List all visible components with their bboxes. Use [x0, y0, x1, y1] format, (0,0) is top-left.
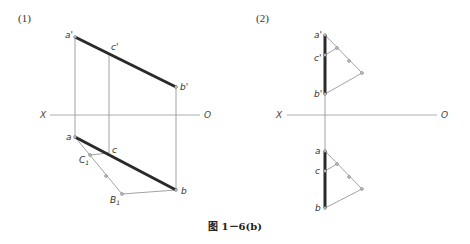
label-c-2: c	[315, 166, 320, 176]
point-a-prime	[74, 36, 77, 39]
point-b	[175, 189, 178, 192]
aux-line-top-slant	[325, 151, 362, 189]
point-front-apex	[361, 72, 364, 75]
label-c-prime-2: c'	[314, 53, 321, 63]
aux-line-front-slant	[325, 35, 362, 73]
aux-line-front-c	[325, 48, 337, 55]
label-a-prime: a'	[65, 30, 73, 40]
point-top-div2	[348, 176, 351, 179]
projection-figure: (1) X O a' c' b' a c b C1 B1 (2)	[0, 0, 470, 244]
figure-caption: 图 1－6(b)	[208, 221, 262, 232]
label-b-prime: b'	[180, 82, 188, 92]
point-c-2	[324, 170, 327, 173]
axis-x-label-1: X	[39, 110, 47, 120]
panel-2-label: (2)	[256, 12, 269, 25]
point-C1	[89, 154, 92, 157]
panel-2: (2) X O a' c' b' a c b	[256, 12, 448, 213]
label-a: a	[66, 132, 72, 142]
point-a-prime-2	[324, 34, 327, 37]
front-view-line-ab	[75, 37, 176, 87]
label-c-prime: c'	[111, 42, 118, 52]
point-a	[74, 136, 77, 139]
label-B1: B1	[110, 195, 120, 206]
point-top-apex	[361, 188, 364, 191]
point-top-div1	[336, 163, 339, 166]
point-c-prime-2	[324, 54, 327, 57]
aux-line-top-c	[325, 164, 337, 171]
label-a-prime-2: a'	[314, 30, 322, 40]
label-c: c	[112, 145, 117, 155]
label-a-2: a	[315, 146, 321, 156]
point-front-div1	[336, 47, 339, 50]
point-divider	[105, 175, 108, 178]
point-b-prime-2	[324, 93, 327, 96]
point-a-2	[324, 150, 327, 153]
aux-line-B1-b	[122, 190, 176, 194]
axis-o-label-2: O	[441, 110, 448, 120]
axis-o-label-1: O	[204, 110, 211, 120]
label-C1: C1	[79, 155, 89, 166]
point-b-prime	[175, 86, 178, 89]
point-front-div2	[348, 60, 351, 63]
label-b: b	[181, 186, 187, 196]
point-b-2	[324, 207, 327, 210]
aux-line-front-close	[325, 73, 362, 94]
panel-1: (1) X O a' c' b' a c b C1 B1	[18, 12, 211, 206]
axis-x-label-2: X	[275, 110, 283, 120]
top-view-line-ab	[75, 137, 176, 190]
panel-1-label: (1)	[18, 12, 31, 25]
point-B1	[121, 193, 124, 196]
label-b-2: b	[315, 203, 321, 213]
label-b-prime-2: b'	[314, 89, 322, 99]
aux-line-top-close	[325, 189, 362, 208]
